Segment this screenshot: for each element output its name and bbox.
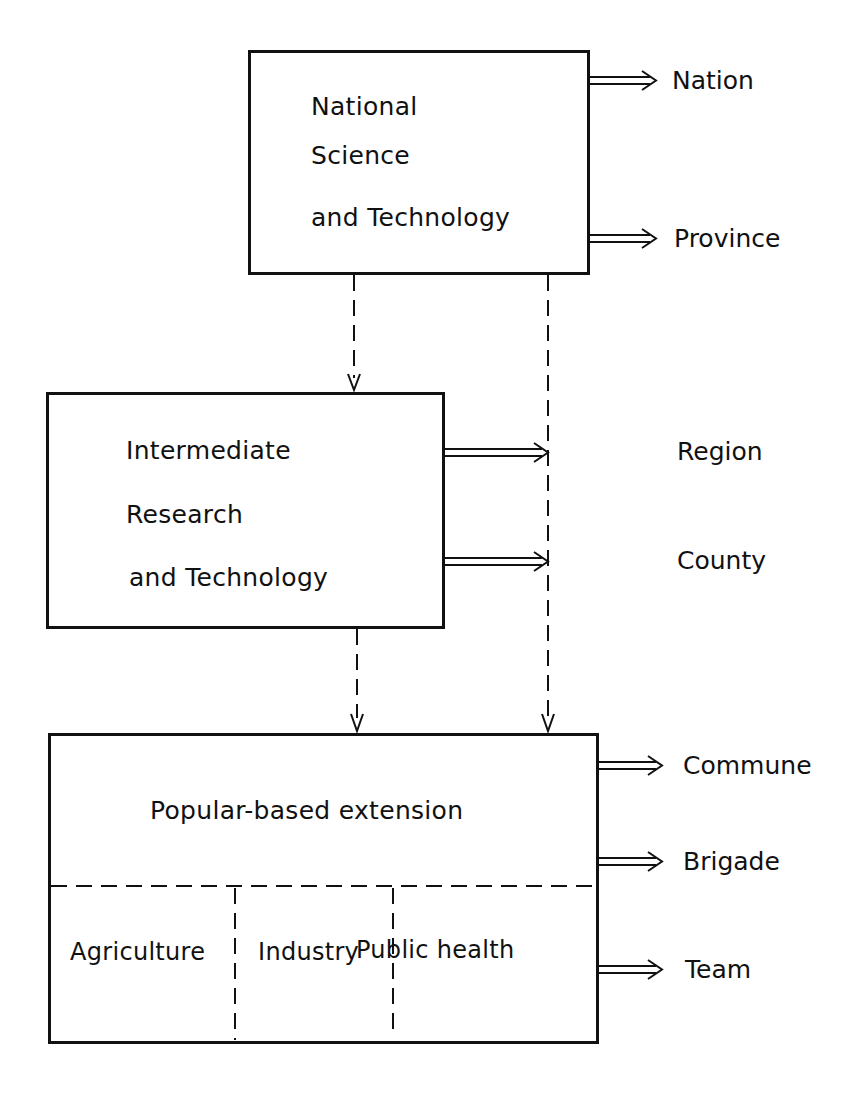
popular-based-extension-box: Popular-based extension Agriculture Indu… — [48, 733, 599, 1044]
level-commune: Commune — [683, 751, 812, 780]
box-label-line: National — [311, 92, 418, 121]
level-brigade: Brigade — [683, 847, 780, 876]
level-region: Region — [677, 437, 763, 466]
sector-agriculture: Agriculture — [70, 938, 205, 966]
level-province: Province — [674, 224, 780, 253]
level-nation: Nation — [672, 66, 754, 95]
intermediate-research-technology-box: Intermediate Research and Technology — [46, 392, 445, 629]
box-label-line: and Technology — [311, 203, 510, 232]
box-label-line: and Technology — [129, 563, 328, 592]
sector-industry: Industry — [258, 938, 359, 966]
box-label-line: Science — [311, 141, 410, 170]
box-label-line: Research — [126, 500, 243, 529]
national-science-technology-box: National Science and Technology — [248, 50, 590, 275]
sector-public-health: Public health — [356, 936, 515, 964]
box-title: Popular-based extension — [150, 796, 463, 825]
level-county: County — [677, 546, 766, 575]
level-team: Team — [685, 955, 751, 984]
arrowhead-down-icon — [542, 714, 554, 731]
box-label-line: Intermediate — [126, 436, 291, 465]
